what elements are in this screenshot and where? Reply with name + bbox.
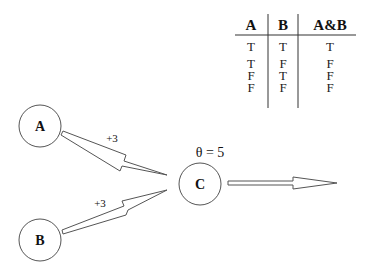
weight-a-to-c: +3 bbox=[106, 132, 118, 144]
table-row: T F F bbox=[247, 56, 334, 71]
node-b: B bbox=[19, 219, 61, 261]
truth-table: A B A&B T T T T F F F T F F F F bbox=[235, 14, 356, 108]
table-cell: T bbox=[247, 39, 255, 54]
table-header-a-and-b: A&B bbox=[313, 17, 346, 33]
table-row: T T T bbox=[247, 39, 334, 54]
output-arrow bbox=[228, 177, 337, 189]
arrow-b-to-c bbox=[62, 190, 167, 234]
node-c-label: C bbox=[195, 177, 205, 192]
table-cell: T bbox=[326, 39, 334, 54]
threshold-label: θ = 5 bbox=[196, 145, 225, 160]
table-cell: F bbox=[247, 80, 254, 95]
table-header-a: A bbox=[246, 17, 257, 33]
node-c: C bbox=[179, 163, 221, 205]
table-cell: T bbox=[279, 39, 287, 54]
table-header-b: B bbox=[278, 17, 288, 33]
table-row: F F F bbox=[247, 80, 333, 95]
node-b-label: B bbox=[35, 233, 44, 248]
table-cell: F bbox=[326, 80, 333, 95]
weight-b-to-c: +3 bbox=[94, 197, 106, 209]
node-a: A bbox=[19, 105, 61, 147]
table-row: F T F bbox=[247, 68, 333, 83]
perceptron-diagram: A B A&B T T T T F F F T F F F F A B bbox=[0, 0, 374, 273]
table-cell: F bbox=[279, 80, 286, 95]
node-a-label: A bbox=[35, 119, 46, 134]
